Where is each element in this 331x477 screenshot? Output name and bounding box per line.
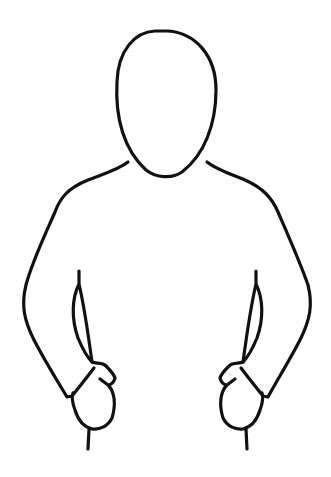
right-inner-arm-outline: [243, 271, 262, 362]
left-shoulder-arm-outline: [24, 162, 128, 397]
person-outline-drawing: [0, 0, 331, 477]
body-outline-figure: Blank person body outline line drawing (…: [0, 0, 331, 477]
head-outline: [117, 31, 216, 177]
left-inner-arm-outline: [73, 271, 92, 362]
right-fist-outline: [220, 362, 263, 449]
left-fist-outline: [72, 362, 115, 449]
right-shoulder-arm-outline: [207, 162, 310, 397]
